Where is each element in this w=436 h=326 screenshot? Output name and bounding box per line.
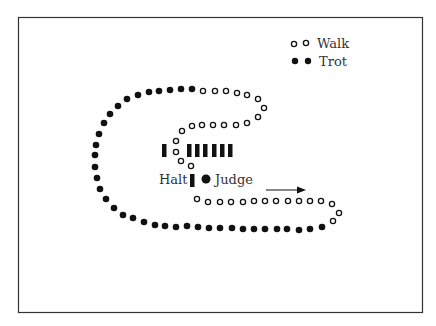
walk-dot <box>173 138 178 143</box>
trot-dot <box>240 226 247 233</box>
walk-dot <box>318 198 323 203</box>
trot-dot <box>307 226 314 233</box>
trot-dot <box>97 186 104 193</box>
walk-dot <box>210 122 215 127</box>
walk-dot <box>255 96 260 101</box>
walk-dot <box>255 114 260 119</box>
trot-dot <box>184 223 191 230</box>
trot-dot <box>92 152 99 159</box>
halt-label: Halt <box>159 172 188 187</box>
trot-dot <box>93 142 100 149</box>
legend-walk-label: Walk <box>317 36 349 51</box>
marker-bar <box>212 144 217 157</box>
trot-dot <box>146 89 153 96</box>
trot-dot <box>167 87 174 94</box>
trot-dot <box>152 222 159 229</box>
marker-bar <box>187 144 192 157</box>
walk-legend-icon <box>303 40 308 45</box>
marker-bar <box>162 144 167 157</box>
trot-dot <box>94 175 101 182</box>
walk-dot <box>217 199 222 204</box>
trot-dot <box>162 223 169 230</box>
walk-dot <box>307 198 312 203</box>
walk-dot <box>262 198 267 203</box>
walk-dot <box>189 123 194 128</box>
walk-dot <box>221 122 226 127</box>
movement-path <box>92 86 342 234</box>
walk-dot <box>329 201 334 206</box>
walk-dot <box>244 92 249 97</box>
trot-dot <box>120 212 127 219</box>
trot-dot <box>217 225 224 232</box>
walk-dot <box>178 158 183 163</box>
walk-dot <box>244 120 249 125</box>
judge-label: Judge <box>213 172 253 187</box>
marker-bars <box>162 144 233 157</box>
trot-dot <box>178 86 185 93</box>
trot-dot <box>124 96 131 103</box>
walk-dot <box>336 210 341 215</box>
trot-dot <box>115 103 122 110</box>
marker-bar <box>195 144 200 157</box>
walk-dot <box>199 122 204 127</box>
marker-bar <box>228 144 233 157</box>
trot-dot <box>251 226 258 233</box>
trot-dot <box>206 225 213 232</box>
marker-bar <box>220 144 225 157</box>
trot-legend-icon <box>305 58 311 64</box>
walk-dot <box>251 198 256 203</box>
trot-dot <box>103 196 110 203</box>
walk-dot <box>173 149 178 154</box>
trot-dot <box>135 92 142 99</box>
trot-dot <box>96 131 103 138</box>
walk-dot <box>273 198 278 203</box>
trot-dot <box>229 225 236 232</box>
walk-dot <box>234 90 239 95</box>
trot-dot <box>195 224 202 231</box>
walk-dot <box>330 218 335 223</box>
trot-dot <box>141 219 148 226</box>
direction-arrow-icon <box>266 187 306 194</box>
trot-dot <box>130 215 137 222</box>
trot-dot <box>284 226 291 233</box>
walk-dot <box>194 196 199 201</box>
trot-dot <box>173 224 180 231</box>
walk-dot <box>296 198 301 203</box>
walk-dot <box>212 88 217 93</box>
trot-dot <box>101 120 108 127</box>
walk-dot <box>228 199 233 204</box>
walk-dot <box>240 199 245 204</box>
walk-dot <box>261 105 266 110</box>
trot-legend-icon <box>292 58 298 64</box>
trot-dot <box>107 111 114 118</box>
trot-dot <box>274 226 281 233</box>
trot-dot <box>92 164 99 171</box>
trot-dot <box>262 226 269 233</box>
walk-dot <box>179 128 184 133</box>
marker-bar <box>203 144 208 157</box>
halt-marker <box>190 174 195 187</box>
walk-dot <box>285 198 290 203</box>
walk-dot <box>233 122 238 127</box>
walk-dot <box>188 163 193 168</box>
arena-frame <box>19 18 423 313</box>
trot-dot <box>319 224 326 231</box>
walk-dot <box>205 199 210 204</box>
trot-dot <box>111 205 118 212</box>
trot-dot <box>189 86 196 93</box>
trot-dot <box>156 88 163 95</box>
walk-dot <box>200 88 205 93</box>
dressage-pattern-diagram: Walk Trot Halt Judge <box>0 0 436 326</box>
walk-dot <box>223 88 228 93</box>
walk-legend-icon <box>291 41 296 46</box>
trot-dot <box>296 227 303 234</box>
judge-marker-icon <box>202 175 211 184</box>
legend: Walk Trot <box>291 36 349 69</box>
legend-trot-label: Trot <box>319 54 348 69</box>
